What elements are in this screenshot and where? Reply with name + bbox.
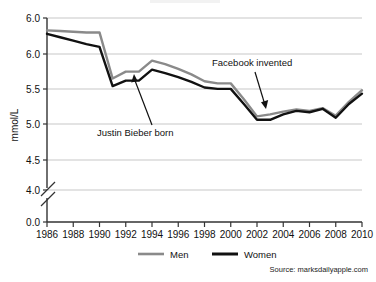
- y-tick-label: 6.0: [26, 13, 40, 24]
- y-tick-label: 4.5: [26, 155, 40, 166]
- x-tick-label: 1992: [115, 229, 138, 240]
- cholesterol-line-chart: 6.0 6.0 5.5 5.0 4.5 4.0 0.0 mmol/L 19861…: [0, 0, 376, 282]
- x-tick-label: 1998: [193, 229, 216, 240]
- x-tick-label: 2008: [325, 229, 348, 240]
- chart-title-cropped: [150, 0, 220, 3]
- x-tick-label: 1988: [62, 229, 85, 240]
- x-tick-label: 1994: [141, 229, 164, 240]
- y-tick-label: 5.5: [26, 84, 40, 95]
- chart-container: 6.0 6.0 5.5 5.0 4.5 4.0 0.0 mmol/L 19861…: [0, 0, 376, 282]
- annotation-label-justin-bieber: Justin Bieber born: [97, 127, 174, 138]
- y-tick-label: 5.0: [26, 119, 40, 130]
- x-tick-label: 1986: [36, 229, 59, 240]
- legend-label-women: Women: [244, 249, 277, 260]
- annotation-label-facebook: Facebook invented: [212, 57, 292, 68]
- y-tick-label: 4.0: [26, 185, 40, 196]
- source-attribution: Source: marksdailyapple.com: [270, 265, 368, 274]
- y-tick-label: 6.0: [26, 49, 40, 60]
- x-tick-label: 2004: [272, 229, 295, 240]
- x-tick-label: 2006: [298, 229, 321, 240]
- x-tick-label: 1990: [88, 229, 111, 240]
- x-tick-label: 2010: [351, 229, 374, 240]
- x-tick-label: 2000: [220, 229, 243, 240]
- legend-label-men: Men: [170, 249, 188, 260]
- y-tick-label: 0.0: [26, 217, 40, 228]
- x-tick-label: 2002: [246, 229, 269, 240]
- x-tick-label: 1996: [167, 229, 190, 240]
- y-axis-title: mmol/L: [9, 108, 20, 141]
